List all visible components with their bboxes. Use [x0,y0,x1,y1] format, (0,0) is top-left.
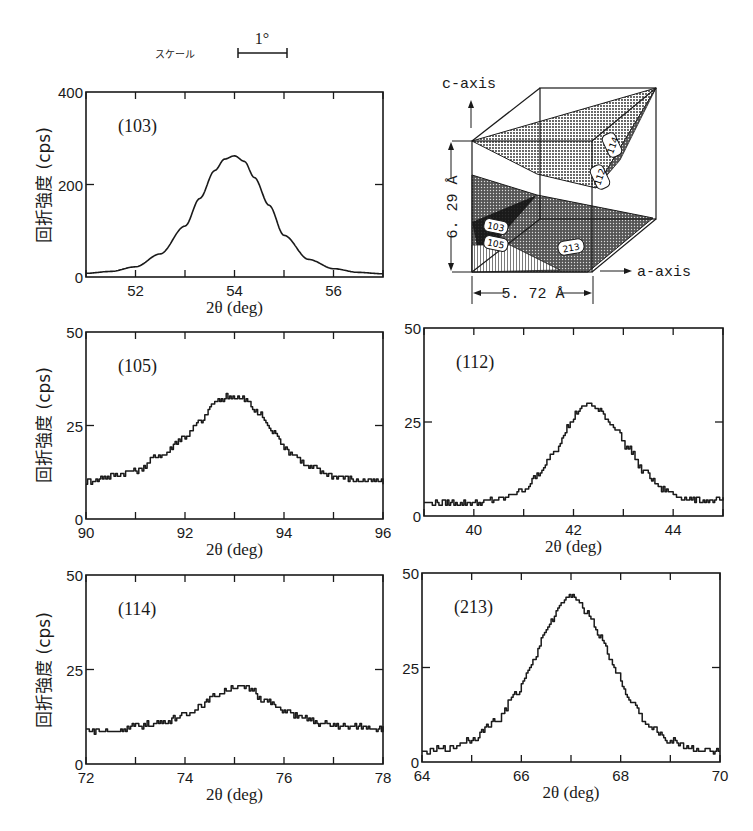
y-tick-label: 0 [411,754,419,771]
diffraction-curve [86,156,383,274]
y-tick-label: 0 [75,269,83,286]
plot-213: 6466687002550(213)2θ (deg) [402,565,728,802]
crystal-structure-diagram: 114 112 103 105 213 c-axis a-axis 6. 29 … [442,76,691,304]
x-axis-label: 2θ (deg) [545,537,602,556]
x-axis-label: 2θ (deg) [206,785,263,804]
panel-title: (103) [118,116,157,137]
c-length-label: 6. 29 Å [445,175,462,238]
a-length-label: 5. 72 Å [501,286,564,303]
x-tick-label: 70 [712,767,729,784]
y-axis-label-row1: 回折強度 (cps) [34,127,54,243]
x-tick-label: 42 [565,521,582,538]
y-tick-label: 50 [66,567,83,584]
x-tick-label: 96 [375,524,392,541]
y-tick-label: 25 [66,662,83,679]
plot-105: 9092949602550(105)2θ (deg) [66,324,391,559]
x-axis-label: 2θ (deg) [206,540,263,559]
diffraction-curve [422,595,720,754]
x-axis-label: 2θ (deg) [543,783,600,802]
panel-title: (105) [118,356,157,377]
plot-114: 7274767802550(114)2θ (deg) [66,567,391,804]
y-axis-label-row3: 回折強度 (cps) [34,612,54,728]
x-tick-label: 40 [465,521,482,538]
y-tick-label: 50 [66,324,83,341]
diffraction-curve [86,393,383,484]
x-tick-label: 92 [177,524,194,541]
x-tick-label: 56 [325,282,342,299]
panel-title: (112) [456,352,494,373]
y-tick-label: 25 [66,418,83,435]
y-tick-label: 200 [58,177,83,194]
plot-112: 40424402550(112)2θ (deg) [404,320,723,556]
diffraction-curve [86,686,383,735]
x-tick-label: 54 [226,282,243,299]
y-axis-label-row2: 回折強度 (cps) [34,367,54,483]
scale-bar: スケール 1° [155,30,287,60]
x-tick-label: 44 [665,521,682,538]
y-tick-label: 0 [75,511,83,528]
x-axis-label: 2θ (deg) [206,298,263,317]
y-tick-label: 50 [402,565,419,582]
c-axis-label: c-axis [442,76,496,93]
x-tick-label: 66 [513,767,530,784]
y-tick-label: 25 [402,660,419,677]
y-tick-label: 0 [75,756,83,773]
x-tick-label: 94 [276,524,293,541]
panel-title: (114) [118,599,156,620]
scale-bar-value: 1° [255,30,269,47]
scale-bar-label: スケール [155,49,195,60]
plot-103: 5254560200400(103)2θ (deg) [58,84,383,317]
x-tick-label: 78 [375,769,392,786]
y-tick-label: 50 [404,320,421,337]
figure-canvas: スケール 1° 回折強度 (cps) 回折強度 (cps) 回折強度 (cps)… [0,0,753,831]
x-tick-label: 74 [177,769,194,786]
x-tick-label: 68 [612,767,629,784]
x-tick-label: 76 [276,769,293,786]
y-tick-label: 400 [58,84,83,101]
a-axis-label: a-axis [637,264,691,281]
panel-title: (213) [454,597,493,618]
diffraction-curve [424,403,723,505]
y-tick-label: 0 [413,508,421,525]
x-tick-label: 52 [127,282,144,299]
y-tick-label: 25 [404,414,421,431]
